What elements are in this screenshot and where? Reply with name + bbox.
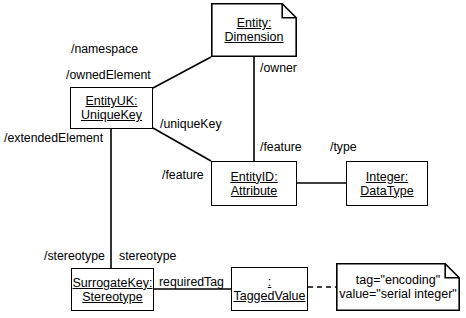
node-line-surrogate-key-0: SurrogateKey: — [73, 276, 153, 290]
node-line-entity-id-1: Attribute — [231, 184, 278, 198]
node-integer-datatype[interactable]: Integer:DataType — [346, 161, 428, 206]
node-line-entity-dimension-0: Entity: — [237, 16, 272, 30]
label-stereotype-slash-label: /stereotype — [44, 249, 105, 263]
label-type-label: /type — [330, 140, 357, 154]
label-owner-label: /owner — [260, 61, 297, 75]
label-feature-left-label: /feature — [162, 168, 204, 182]
label-feature-upper-label: /feature — [260, 140, 302, 154]
node-line-entity-uk-1: UniqueKey — [81, 108, 142, 122]
label-requiredtag-label: requiredTag — [159, 275, 224, 289]
label-namespace-label: /namespace — [71, 42, 138, 56]
node-line-integer-datatype-0: Integer: — [366, 170, 408, 184]
node-entity-uk[interactable]: EntityUK:UniqueKey — [70, 87, 153, 129]
node-line-entity-id-0: EntityID: — [230, 170, 277, 184]
node-tag-note[interactable]: tag="encoding"value="serial integer" — [336, 263, 460, 311]
node-line-surrogate-key-1: Stereotype — [82, 290, 142, 304]
node-entity-dimension[interactable]: Entity:Dimension — [211, 3, 297, 57]
edge-uniquekey-feature — [153, 128, 211, 161]
node-tagged-value[interactable]: :TaggedValue — [231, 267, 308, 311]
label-ownedelement-label: /ownedElement — [66, 68, 151, 82]
node-entity-id[interactable]: EntityID:Attribute — [211, 161, 297, 206]
node-line-entity-dimension-1: Dimension — [224, 30, 283, 44]
node-line-tag-note-1: value="serial integer" — [339, 287, 457, 301]
node-text-tag-note: tag="encoding"value="serial integer" — [336, 263, 460, 311]
uml-object-diagram: Entity:DimensionEntityUK:UniqueKeyEntity… — [0, 0, 466, 318]
node-line-tagged-value-1: TaggedValue — [233, 289, 305, 303]
node-line-tagged-value-0: : — [268, 275, 271, 289]
label-extendedelement-label: /extendedElement — [4, 131, 103, 145]
node-text-entity-dimension: Entity:Dimension — [211, 3, 297, 57]
label-uniquekey-label: /uniqueKey — [160, 117, 222, 131]
node-line-entity-uk-0: EntityUK: — [85, 94, 137, 108]
label-stereotype-label: stereotype — [119, 249, 176, 263]
edge-namespace-ownedelement — [153, 57, 211, 88]
node-line-tag-note-0: tag="encoding" — [356, 273, 440, 287]
node-line-integer-datatype-1: DataType — [360, 184, 414, 198]
node-surrogate-key[interactable]: SurrogateKey:Stereotype — [71, 268, 154, 311]
